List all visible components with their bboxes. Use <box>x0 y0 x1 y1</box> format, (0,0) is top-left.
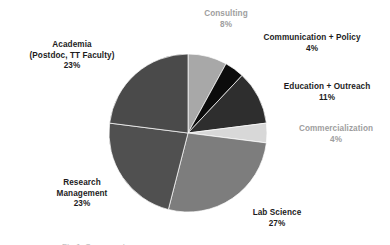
pie-label-consulting-percent: 8% <box>186 20 266 31</box>
pie-label-commercialization-line1: Commercialization <box>284 124 388 135</box>
pie-label-education-outreach: Education + Outreach 11% <box>268 82 386 103</box>
pie-label-research-management-line1: Research <box>30 178 134 189</box>
pie-label-lab-science-percent: 27% <box>234 219 320 230</box>
pie-label-commercialization: Commercialization 4% <box>284 124 388 145</box>
pie-label-academia-line1: Academia <box>8 40 136 51</box>
pie-label-academia-line2: (Postdoc, TT Faculty) <box>8 51 136 62</box>
pie-chart-figure: Academia (Postdoc, TT Faculty) 23% Consu… <box>0 0 390 245</box>
pie-label-research-management-percent: 23% <box>30 199 134 210</box>
pie-label-education-outreach-percent: 11% <box>268 93 386 104</box>
pie-label-consulting-line1: Consulting <box>186 9 266 20</box>
pie-label-academia-percent: 23% <box>8 61 136 72</box>
pie-label-lab-science-line1: Lab Science <box>234 208 320 219</box>
pie-label-academia: Academia (Postdoc, TT Faculty) 23% <box>8 40 136 72</box>
pie-label-education-outreach-line1: Education + Outreach <box>268 82 386 93</box>
pie-label-research-management-line2: Management <box>30 189 134 200</box>
pie-label-consulting: Consulting 8% <box>186 9 266 30</box>
pie-label-lab-science: Lab Science 27% <box>234 208 320 229</box>
pie-label-communication-policy: Communication + Policy 4% <box>238 33 386 54</box>
pie-label-commercialization-percent: 4% <box>284 135 388 146</box>
pie-label-communication-policy-line1: Communication + Policy <box>238 33 386 44</box>
pie-label-research-management: Research Management 23% <box>30 178 134 210</box>
pie-label-communication-policy-percent: 4% <box>238 44 386 55</box>
